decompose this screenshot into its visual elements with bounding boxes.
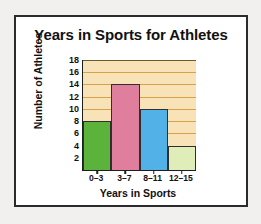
bar-slot (168, 60, 196, 170)
bar-slot (111, 60, 139, 170)
x-axis-tick-label: 3–7 (110, 173, 138, 183)
y-axis-tick-label: 8 (74, 117, 79, 126)
y-axis-tick-label: 14 (69, 80, 79, 89)
y-axis-tick-label: 4 (74, 141, 79, 150)
y-axis-tick-label: 18 (69, 56, 79, 65)
bar[interactable] (83, 121, 111, 170)
bar-slot (140, 60, 168, 170)
plot-area: 18161412108642 (82, 60, 196, 171)
y-axis-tick-label: 12 (69, 92, 79, 101)
x-axis-tick-labels: 0–33–78–1112–15 (82, 173, 195, 183)
y-axis-tick-label: 6 (74, 129, 79, 138)
bar[interactable] (111, 84, 139, 170)
chart-title: Years in Sports for Athletes (16, 26, 246, 43)
bar[interactable] (168, 146, 196, 170)
x-axis-title: Years in Sports (58, 187, 218, 199)
bar[interactable] (140, 109, 168, 170)
x-axis-tick-label: 12–15 (167, 173, 195, 183)
x-axis-tick-label: 0–3 (82, 173, 110, 183)
y-axis-tick-label: 2 (74, 153, 79, 162)
x-axis-tick-label: 8–11 (139, 173, 167, 183)
bar-slot (83, 60, 111, 170)
page-background: Years in Sports for Athletes Number of A… (0, 0, 261, 224)
y-axis-tick-label: 16 (69, 68, 79, 77)
chart-card: Years in Sports for Athletes Number of A… (14, 15, 248, 207)
bar-series (83, 60, 196, 170)
y-axis-tick-label: 10 (69, 104, 79, 113)
y-axis-title: Number of Athletes (32, 23, 44, 139)
